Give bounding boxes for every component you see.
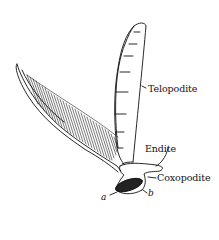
telopodite-leader: [142, 86, 146, 88]
coxopodite-leader: [148, 177, 156, 178]
label-endite: Endite: [145, 143, 176, 154]
a-leader: [110, 192, 117, 195]
label-telopodite: Telopodite: [148, 83, 197, 94]
label-coxopodite: Coxopodite: [157, 172, 210, 183]
telopodite-leg: [115, 23, 146, 164]
exite-hatching: [27, 75, 118, 160]
label-a: a: [101, 192, 106, 202]
b-leader: [143, 190, 147, 193]
label-b: b: [148, 188, 154, 198]
